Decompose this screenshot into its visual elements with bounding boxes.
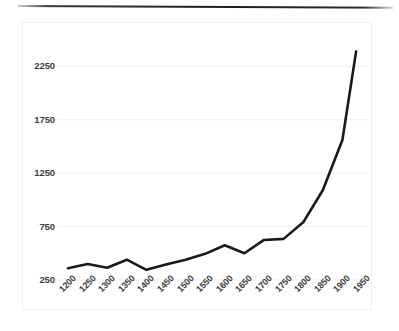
y-axis-tick-label: 2250	[15, 60, 55, 71]
chart-card	[22, 22, 372, 310]
y-axis-tick-label: 250	[15, 274, 55, 285]
header-divider	[18, 5, 393, 9]
y-axis-tick-label: 750	[15, 221, 55, 232]
y-axis-tick-label: 1750	[15, 114, 55, 125]
chart-page: 250750125017502250 120012501300135014001…	[0, 0, 399, 331]
y-axis-tick-label: 1250	[15, 167, 55, 178]
